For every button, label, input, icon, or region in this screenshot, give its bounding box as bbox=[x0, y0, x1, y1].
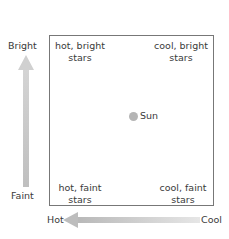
quadrant-cool-bright: cool, bright stars bbox=[148, 40, 214, 64]
temperature-arrow-icon bbox=[63, 212, 200, 228]
x-axis-right-label: Cool bbox=[201, 214, 222, 226]
y-axis-top-label: Bright bbox=[8, 40, 37, 52]
sun-label: Sun bbox=[140, 110, 158, 122]
quadrant-label-line: stars bbox=[150, 194, 216, 206]
quadrant-hot-bright: hot, bright stars bbox=[50, 40, 110, 64]
quadrant-label-line: hot, bright bbox=[50, 40, 110, 52]
quadrant-label-line: hot, faint bbox=[50, 182, 110, 194]
brightness-arrow-icon bbox=[18, 55, 34, 187]
quadrant-label-line: cool, bright bbox=[148, 40, 214, 52]
quadrant-label-line: cool, faint bbox=[150, 182, 216, 194]
quadrant-label-line: stars bbox=[148, 52, 214, 64]
y-axis-bottom-label: Faint bbox=[11, 190, 34, 202]
quadrant-label-line: stars bbox=[50, 194, 110, 206]
sun-marker-icon bbox=[129, 112, 138, 121]
quadrant-label-line: stars bbox=[50, 52, 110, 64]
quadrant-hot-faint: hot, faint stars bbox=[50, 182, 110, 206]
quadrant-cool-faint: cool, faint stars bbox=[150, 182, 216, 206]
x-axis-left-label: Hot bbox=[47, 214, 64, 226]
